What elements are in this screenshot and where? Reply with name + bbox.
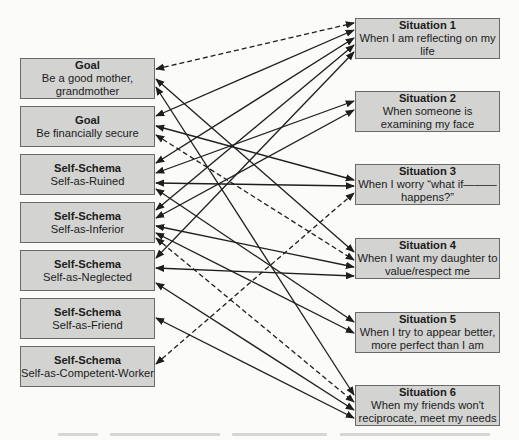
node-type-label: Self-Schema xyxy=(54,258,121,271)
node-description: Be financially secure xyxy=(36,127,139,140)
node-type-label: Self-Schema xyxy=(54,354,121,367)
edge-ss-neglected-to-sit-4 xyxy=(156,268,354,276)
node-description: Be a good mother, grandmother xyxy=(21,72,154,98)
edge-ss-inferior-to-sit-6 xyxy=(156,238,354,402)
node-type-label: Self-Schema xyxy=(54,306,121,319)
edge-ss-inferior-to-sit-5 xyxy=(156,233,354,333)
node-description: When someone is examining my face xyxy=(356,105,499,131)
node-sit-2: Situation 2When someone is examining my … xyxy=(355,91,500,132)
node-description: When my friends won't reciprocate, meet … xyxy=(356,399,499,425)
node-sit-6: Situation 6When my friends won't recipro… xyxy=(355,385,500,426)
node-type-label: Situation 4 xyxy=(399,239,456,252)
edge-goal-mother-to-sit-6 xyxy=(156,87,354,395)
node-description: Self-as-Inferior xyxy=(51,223,124,236)
node-type-label: Situation 3 xyxy=(399,165,456,178)
edge-ss-ruined-to-sit-2 xyxy=(156,101,354,173)
node-description: When I try to appear better, more perfec… xyxy=(356,326,499,352)
edge-ss-competent-to-sit-3 xyxy=(156,193,354,364)
node-ss-competent: Self-SchemaSelf-as-Competent-Worker xyxy=(20,346,155,387)
node-description: Self-as-Friend xyxy=(52,319,122,332)
edge-ss-inferior-to-sit-4 xyxy=(156,226,354,267)
node-type-label: Situation 5 xyxy=(399,313,456,326)
edge-ss-ruined-to-sit-1 xyxy=(156,38,354,163)
node-type-label: Goal xyxy=(75,114,100,127)
edge-ss-inferior-to-sit-2 xyxy=(156,110,354,218)
node-description: When I am reflecting on my life xyxy=(356,32,499,58)
node-sit-1: Situation 1When I am reflecting on my li… xyxy=(355,18,500,59)
faded-background-text xyxy=(0,425,519,440)
node-goal-mother: GoalBe a good mother, grandmother xyxy=(20,58,155,99)
node-type-label: Self-Schema xyxy=(54,210,121,223)
edge-goal-mother-to-sit-1 xyxy=(156,23,354,69)
node-type-label: Situation 1 xyxy=(399,19,456,32)
node-sit-5: Situation 5When I try to appear better, … xyxy=(355,312,500,353)
node-ss-friend: Self-SchemaSelf-as-Friend xyxy=(20,298,155,339)
node-description: Self-as-Competent-Worker xyxy=(21,367,154,380)
node-description: Self-as-Ruined xyxy=(51,175,125,188)
node-ss-neglected: Self-SchemaSelf-as-Neglected xyxy=(20,250,155,291)
node-description: When I worry “what if———happens?” xyxy=(356,178,499,204)
edge-ss-neglected-to-sit-1 xyxy=(156,52,354,258)
node-description: Self-as-Neglected xyxy=(43,271,132,284)
node-type-label: Goal xyxy=(75,59,100,72)
node-type-label: Situation 2 xyxy=(399,92,456,105)
edge-ss-friend-to-sit-6 xyxy=(156,318,354,418)
node-sit-3: Situation 3When I worry “what if———happe… xyxy=(355,164,500,205)
node-goal-financial: GoalBe financially secure xyxy=(20,106,155,147)
node-ss-ruined: Self-SchemaSelf-as-Ruined xyxy=(20,154,155,195)
node-description: When I want my daughter to value/respect… xyxy=(356,252,499,278)
node-ss-inferior: Self-SchemaSelf-as-Inferior xyxy=(20,202,155,243)
edge-goal-mother-to-sit-4 xyxy=(156,79,354,252)
edge-goal-financial-to-sit-1 xyxy=(156,30,354,116)
node-sit-4: Situation 4When I want my daughter to va… xyxy=(355,238,500,279)
node-type-label: Self-Schema xyxy=(54,162,121,175)
node-type-label: Situation 6 xyxy=(399,386,456,399)
